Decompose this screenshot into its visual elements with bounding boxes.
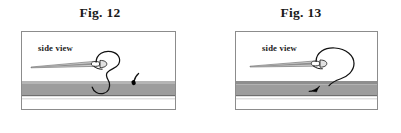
figure-frame-fig-13: side view xyxy=(235,31,378,110)
fabric-lower-edge xyxy=(236,95,377,96)
fabric-under-rule xyxy=(22,99,175,100)
fabric-base xyxy=(236,100,377,110)
needle-head xyxy=(320,60,327,67)
needle-shaft xyxy=(250,61,320,67)
illustration-fig-13 xyxy=(236,32,377,109)
fabric-under-rule xyxy=(236,99,377,100)
figure-caption-fig-12: Fig. 12 xyxy=(0,4,200,22)
side-view-label-fig-13: side view xyxy=(262,43,297,53)
needle-head xyxy=(100,60,107,67)
fabric-main-band xyxy=(236,84,377,95)
fabric-top-strip xyxy=(236,81,377,84)
figure-frame-fig-12: side view xyxy=(21,31,176,110)
figure-panel-fig-13: Fig. 13 xyxy=(201,0,401,133)
fabric-lower-edge xyxy=(22,95,175,96)
thread-tail xyxy=(134,73,139,81)
figure-caption-fig-13: Fig. 13 xyxy=(201,4,401,22)
figure-panel-fig-12: Fig. 12 xyxy=(0,0,200,133)
needle-eye xyxy=(311,61,319,66)
needle-shaft xyxy=(31,61,100,67)
fabric-top-strip xyxy=(22,81,175,84)
fabric-base xyxy=(22,100,175,110)
side-view-label-fig-12: side view xyxy=(38,43,73,53)
figure-sheet: Fig. 12 xyxy=(0,0,401,133)
